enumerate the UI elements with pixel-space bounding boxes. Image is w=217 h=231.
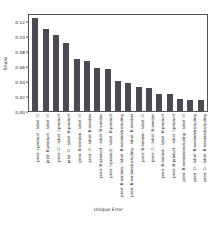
x-tick-slot: pred: O - label: B-product [63, 112, 69, 204]
x-axis-title: Unique Error [0, 207, 217, 212]
x-tick-mark [107, 110, 108, 112]
bar [84, 61, 90, 111]
x-tick-mark [118, 110, 119, 112]
x-tick-mark [159, 110, 160, 112]
bar [125, 83, 131, 111]
x-tick-mark [149, 110, 150, 112]
bar-chart-figure: Share 0.000.020.040.060.080.100.12 pred:… [0, 0, 217, 231]
x-tick-slot: pred: B-vendor - label: B-product [157, 112, 163, 204]
x-tick-label: pred: B-version/including - label: B-ver… [130, 114, 134, 197]
y-tick-label: 0.08 [15, 49, 25, 54]
x-tick-mark [128, 110, 129, 112]
bar [94, 68, 100, 111]
bar [156, 94, 162, 111]
x-tick-label: pred: B-vendor - label: B-product [161, 114, 165, 178]
x-tick-slot: pred: I-product - label: B-product [105, 112, 111, 204]
x-tick-label: pred: B-product - label: B-vendor [99, 114, 103, 178]
x-tick-slot: pred: B-version - label: B-version/inclu… [115, 112, 121, 204]
x-tick-slot: pred: B-product - label: I-product [167, 112, 173, 204]
x-tick-slot: pred: O - label: B-vendor [146, 112, 152, 204]
bar [105, 69, 111, 111]
y-axis-ticks: 0.000.020.040.060.080.100.12 [0, 14, 28, 112]
y-tick-label: 0.10 [15, 34, 25, 39]
x-tick-mark [44, 110, 45, 112]
x-tick-label: pred: B-version - label: O [78, 114, 82, 163]
plot-area [28, 14, 208, 112]
x-tick-slot: pred: O - label: B-version/including [188, 112, 194, 204]
x-tick-label: pred: B-product - label: O [46, 114, 50, 163]
x-tick-label: pred: I-product - label: O [36, 114, 40, 162]
x-tick-label: pred: B-vendor - label: O [141, 114, 145, 162]
bar-series [29, 15, 207, 111]
x-tick-label: pred: O - label: B-version/including [203, 114, 207, 182]
y-tick-label: 0.00 [15, 110, 25, 115]
bar [74, 59, 80, 111]
x-tick-mark [191, 110, 192, 112]
x-tick-slot: pred: B-version/including - label: O [178, 112, 184, 204]
x-tick-mark [97, 110, 98, 112]
bar [43, 29, 49, 111]
x-tick-mark [170, 110, 171, 112]
x-tick-mark [86, 110, 87, 112]
bar [146, 88, 152, 111]
x-tick-label: pred: B-version/including - label: O [182, 114, 186, 182]
x-tick-mark [55, 110, 56, 112]
x-tick-slot: pred: B-version/including - label: B-ver… [125, 112, 131, 204]
x-tick-mark [201, 110, 202, 112]
x-tick-mark [34, 110, 35, 112]
x-tick-slot: pred: O - label: I-product [52, 112, 58, 204]
bar [136, 87, 142, 111]
x-tick-label: pred: O - label: B-vendor [151, 114, 155, 162]
x-tick-slot: pred: B-version - label: O [73, 112, 79, 204]
x-tick-label: pred: O - label: B-version/including [193, 114, 197, 182]
bar [63, 43, 69, 111]
x-tick-label: pred: B-version - label: B-version/inclu… [120, 114, 124, 197]
bar [32, 18, 38, 111]
x-tick-label: pred: I-product - label: B-product [109, 114, 113, 178]
x-tick-slot: pred: O - label: B-version [84, 112, 90, 204]
x-tick-slot: pred: B-product - label: B-vendor [94, 112, 100, 204]
y-tick-label: 0.12 [15, 19, 25, 24]
x-tick-slot: pred: I-product - label: O [31, 112, 37, 204]
x-tick-mark [139, 110, 140, 112]
x-tick-label: pred: O - label: B-product [67, 114, 71, 163]
x-tick-mark [76, 110, 77, 112]
x-tick-mark [180, 110, 181, 112]
x-tick-label: pred: B-product - label: I-product [172, 114, 176, 178]
x-tick-slot: pred: B-product - label: O [42, 112, 48, 204]
bar [115, 81, 121, 111]
x-tick-slot: pred: B-vendor - label: O [136, 112, 142, 204]
x-tick-label: pred: O - label: B-version [88, 114, 92, 163]
x-axis-tick-labels: pred: I-product - label: Opred: B-produc… [28, 112, 208, 204]
x-tick-label: pred: O - label: I-product [57, 114, 61, 162]
bar [167, 94, 173, 111]
x-tick-slot: pred: O - label: B-version/including [199, 112, 205, 204]
y-tick-label: 0.06 [15, 64, 25, 69]
bar [53, 35, 59, 111]
y-tick-label: 0.04 [15, 79, 25, 84]
y-tick-label: 0.02 [15, 94, 25, 99]
x-tick-mark [65, 110, 66, 112]
